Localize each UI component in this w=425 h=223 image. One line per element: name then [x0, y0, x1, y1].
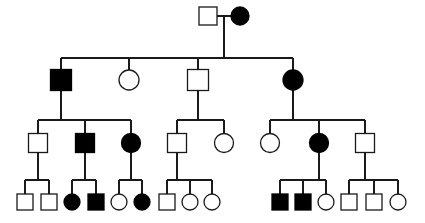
pedigree-symbol-male-unaffected[interactable]: [29, 134, 48, 153]
pedigree-symbol-female-affected[interactable]: [134, 194, 150, 210]
pedigree-symbol-female-unaffected[interactable]: [261, 134, 280, 153]
pedigree-symbol-female-unaffected[interactable]: [119, 70, 139, 90]
pedigree-symbol-male-unaffected[interactable]: [159, 194, 175, 210]
pedigree-symbol-male-unaffected[interactable]: [17, 194, 33, 210]
pedigree-canvas: [0, 0, 425, 223]
pedigree-symbol-male-affected[interactable]: [88, 194, 104, 210]
pedigree-chart: [0, 0, 425, 223]
pedigree-symbol-male-affected[interactable]: [76, 134, 95, 153]
pedigree-symbol-female-affected[interactable]: [310, 134, 329, 153]
pedigree-symbol-male-unaffected[interactable]: [366, 194, 382, 210]
pedigree-symbol-female-unaffected[interactable]: [182, 194, 198, 210]
pedigree-symbol-female-unaffected[interactable]: [215, 134, 234, 153]
pedigree-symbol-female-affected[interactable]: [64, 194, 80, 210]
connector-lines-layer: [25, 16, 398, 194]
pedigree-symbol-male-affected[interactable]: [51, 70, 72, 91]
pedigree-symbol-male-unaffected[interactable]: [168, 134, 187, 153]
pedigree-symbol-male-unaffected[interactable]: [356, 134, 375, 153]
pedigree-symbol-female-affected[interactable]: [231, 7, 249, 25]
pedigree-symbol-male-unaffected[interactable]: [41, 194, 57, 210]
pedigree-symbol-male-affected[interactable]: [272, 194, 288, 210]
pedigree-symbol-female-unaffected[interactable]: [204, 194, 220, 210]
pedigree-symbol-male-affected[interactable]: [295, 194, 311, 210]
pedigree-symbol-male-unaffected[interactable]: [188, 70, 209, 91]
pedigree-symbol-male-unaffected[interactable]: [341, 194, 357, 210]
pedigree-symbol-female-unaffected[interactable]: [111, 194, 127, 210]
pedigree-symbol-female-affected[interactable]: [122, 134, 141, 153]
pedigree-symbol-female-unaffected[interactable]: [390, 194, 406, 210]
pedigree-symbol-male-unaffected[interactable]: [199, 7, 217, 25]
pedigree-symbol-female-affected[interactable]: [283, 70, 303, 90]
pedigree-symbol-female-unaffected[interactable]: [318, 194, 334, 210]
